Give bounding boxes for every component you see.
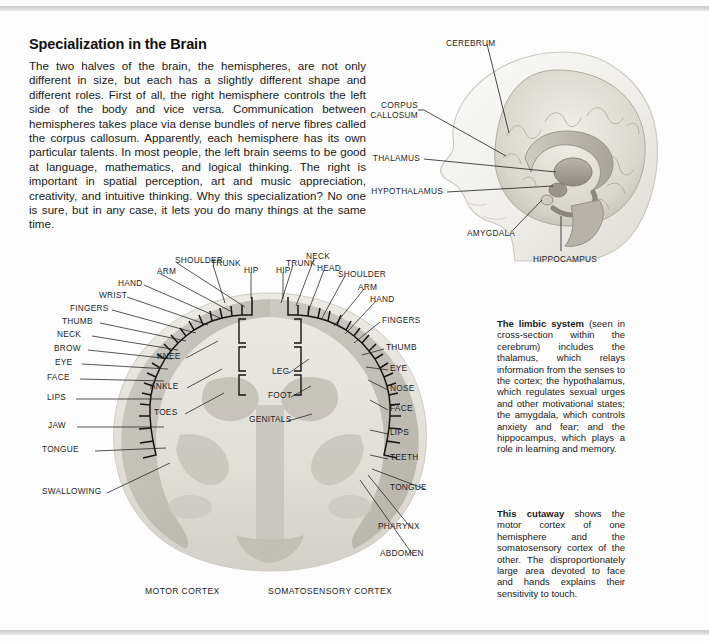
label-hand: HAND: [118, 278, 143, 288]
bottom-divider-rule: [0, 630, 709, 635]
cutaway-caption-lead: This cutaway: [497, 508, 564, 519]
label-fingers: FINGERS: [70, 303, 109, 313]
label-leg: LEG: [272, 366, 289, 376]
label-ankle: ANKLE: [150, 381, 178, 391]
label-nose-right: NOSE: [390, 383, 415, 393]
cutaway-caption-body: shows the motor cortex of one hemisphere…: [497, 508, 625, 599]
label-shoulder-right: SHOULDER: [338, 269, 386, 279]
label-eye: EYE: [55, 357, 72, 367]
limbic-caption-lead: The limbic system: [497, 318, 584, 329]
label-cerebrum: CEREBRUM: [446, 38, 495, 48]
label-neck: NECK: [57, 329, 81, 339]
label-swallowing: SWALLOWING: [42, 486, 101, 496]
label-hippocampus: HIPPOCAMPUS: [533, 254, 597, 264]
label-hip-left: HIP: [244, 265, 259, 275]
article-block: Specialization in the Brain The two halv…: [29, 36, 366, 232]
top-divider-rule: [0, 6, 709, 11]
label-fingers-right: FINGERS: [382, 315, 421, 325]
cerebrum-shape: [495, 70, 645, 226]
label-thumb: THUMB: [62, 316, 93, 326]
label-tongue: TONGUE: [42, 444, 79, 454]
label-thumb-right: THUMB: [386, 342, 417, 352]
cutaway-caption: This cutaway shows the motor cortex of o…: [497, 508, 625, 599]
label-knee: KNEE: [157, 351, 181, 361]
label-arm-right: ARM: [358, 282, 377, 292]
label-arm: ARM: [157, 266, 176, 276]
page-canvas: Specialization in the Brain The two halv…: [0, 0, 709, 642]
limbic-caption-body: (seen in cross-section within the cerebr…: [497, 318, 625, 454]
label-face: FACE: [47, 372, 70, 382]
label-corpus: CORPUS: [381, 100, 418, 110]
amygdala-shape: [541, 195, 553, 205]
label-foot: FOOT: [268, 390, 292, 400]
thalamus-shape: [554, 158, 592, 186]
label-abdomen-right: ABDOMEN: [380, 548, 424, 558]
label-amygdala: AMYGDALA: [467, 228, 515, 238]
cortex-illustration: [60, 285, 480, 585]
hypothalamus-shape: [549, 183, 567, 197]
page-title: Specialization in the Brain: [29, 36, 366, 52]
label-wrist: WRIST: [99, 290, 127, 300]
cortex-cross-section-figure: [60, 285, 480, 585]
label-toes: TOES: [154, 407, 177, 417]
label-genitals: GENITALS: [249, 414, 291, 424]
label-tongue-right: TONGUE: [390, 482, 427, 492]
label-hand-right: HAND: [370, 294, 395, 304]
label-thalamus: THALAMUS: [373, 153, 420, 163]
label-pharynx-right: PHARYNX: [378, 521, 420, 531]
caption-somatosensory-cortex: SOMATOSENSORY CORTEX: [268, 586, 392, 596]
label-jaw: JAW: [48, 420, 66, 430]
label-teeth-right: TEETH: [390, 452, 418, 462]
label-neck-right: NECK: [306, 251, 330, 261]
label-lips: LIPS: [47, 392, 66, 402]
label-callosum: CALLOSUM: [370, 110, 418, 120]
label-eye-right: EYE: [390, 363, 407, 373]
caption-motor-cortex: MOTOR CORTEX: [145, 586, 220, 596]
label-brow: BROW: [54, 343, 81, 353]
label-lips-right: LIPS: [390, 427, 409, 437]
head-cross-section-figure: [395, 40, 695, 270]
article-body: The two halves of the brain, the hemisph…: [29, 59, 366, 232]
label-trunk: TRUNK: [211, 258, 241, 268]
head-illustration: [395, 40, 695, 270]
label-hypothalamus: HYPOTHALAMUS: [371, 186, 443, 196]
label-face-right: FACE: [390, 403, 413, 413]
limbic-system-caption: The limbic system (seen in cross-section…: [497, 318, 625, 455]
